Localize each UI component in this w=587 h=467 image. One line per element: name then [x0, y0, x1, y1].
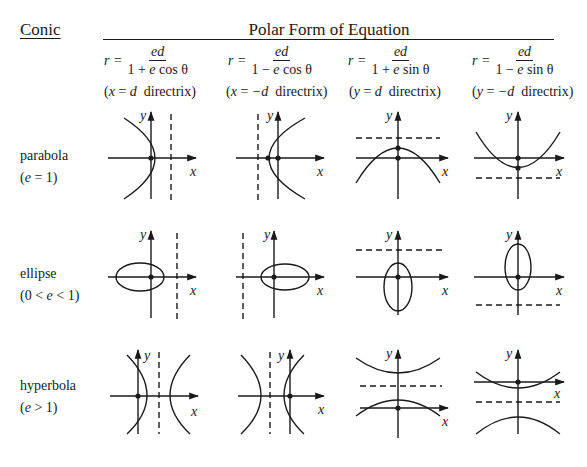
graph-ellipse-cos-plus: y x	[100, 227, 210, 327]
row-label-ellipse: ellipse (0 < e < 1)	[20, 263, 79, 307]
graph-hyperbola-sin-minus: y x	[474, 346, 584, 446]
formula-col-2: r = ed1 − e cos θ	[228, 44, 314, 77]
formula-col-3: r = ed1 + e sin θ	[348, 44, 432, 77]
svg-text:x: x	[190, 404, 198, 419]
formula-col-1: r = ed1 + e cos θ	[104, 44, 190, 77]
polar-form-header: Polar Form of Equation	[104, 20, 554, 40]
directrix-col-1: (x = d directrix)	[104, 84, 196, 100]
svg-text:y: y	[504, 346, 513, 361]
svg-text:x: x	[555, 283, 563, 298]
header-rule	[103, 39, 554, 40]
row-label-hyperbola: hyperbola (e > 1)	[20, 375, 76, 419]
svg-text:x: x	[317, 402, 325, 417]
svg-text:y: y	[384, 108, 393, 123]
svg-text:y: y	[265, 108, 274, 123]
svg-text:y: y	[384, 227, 393, 242]
svg-text:y: y	[138, 227, 147, 242]
graph-parabola-sin-minus: y x	[474, 108, 584, 208]
svg-text:x: x	[441, 164, 449, 179]
graph-hyperbola-sin-plus: y x	[352, 346, 462, 446]
svg-text:y: y	[504, 108, 513, 123]
svg-text:y: y	[138, 108, 147, 123]
svg-text:y: y	[504, 227, 513, 242]
svg-text:y: y	[276, 348, 285, 363]
conic-column-header: Conic	[20, 20, 61, 40]
svg-text:y: y	[142, 348, 151, 363]
svg-text:x: x	[553, 386, 561, 401]
formula-col-4: r = ed1 − e sin θ	[472, 44, 556, 77]
directrix-col-4: (y = −d directrix)	[472, 84, 573, 100]
svg-text:x: x	[316, 283, 324, 298]
directrix-col-2: (x = −d directrix)	[226, 84, 327, 100]
directrix-col-3: (y = d directrix)	[349, 84, 441, 100]
graph-ellipse-sin-minus: y x	[474, 227, 584, 327]
svg-text:x: x	[189, 164, 197, 179]
graph-parabola-sin-plus: y x	[352, 108, 462, 208]
svg-text:x: x	[555, 164, 563, 179]
svg-text:y: y	[384, 346, 393, 361]
graph-hyperbola-cos-plus: y x	[100, 346, 210, 446]
svg-text:x: x	[441, 283, 449, 298]
svg-text:x: x	[316, 164, 324, 179]
svg-text:x: x	[189, 283, 197, 298]
row-label-parabola: parabola (e = 1)	[20, 145, 68, 189]
svg-text:y: y	[262, 227, 271, 242]
graph-ellipse-cos-minus: y x	[224, 227, 334, 327]
graph-parabola-cos-plus: y x	[100, 108, 210, 208]
svg-text:x: x	[441, 414, 449, 429]
focus-point	[148, 155, 153, 160]
graph-parabola-cos-minus: y x	[224, 108, 334, 208]
graph-ellipse-sin-plus: y x	[352, 227, 462, 327]
graph-hyperbola-cos-minus: y x	[224, 346, 334, 446]
